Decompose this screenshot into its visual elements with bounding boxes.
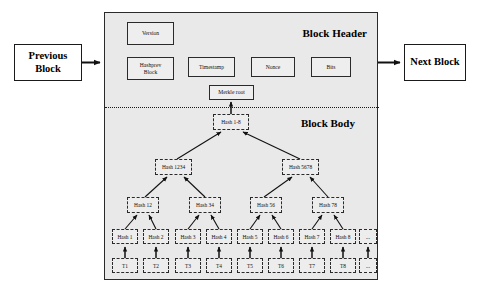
transaction-t6: T6 [268,258,294,273]
block-header-title: Block Header [303,27,367,39]
transaction-t2: T2 [143,258,169,273]
merkle-node-hash-78-label: Hash 78 [319,202,337,208]
merkle-node-hash-12: Hash 12 [127,197,159,213]
merkle-node-hash-56-label: Hash 56 [257,202,275,208]
header-field-nonce: Nonce [251,57,295,77]
transaction-t1-label: T1 [122,263,128,269]
merkle-leaf-hash-overflow-label: ... [366,234,370,240]
merkle-node-hash-5678-label: Hash 5678 [289,164,312,170]
transaction-t8: T8 [330,258,356,273]
merkle-leaf-hash-7: Hash 7 [299,229,325,244]
transaction-t7: T7 [299,258,325,273]
blockchain-block-diagram: Previous Block Next Block Block Header B… [0,0,478,292]
transaction-t8-label: T8 [340,263,346,269]
header-field-merkle-root-label: Merkle root [218,89,245,96]
transaction-t5-label: T5 [247,263,253,269]
merkle-node-hash-12-label: Hash 12 [134,202,152,208]
header-field-timestamp: Timestamp [188,57,235,77]
header-field-version: Version [127,22,174,45]
header-field-merkle-root: Merkle root [209,85,254,100]
transaction-t1: T1 [112,258,138,273]
merkle-node-hash-56: Hash 56 [250,197,282,213]
merkle-leaf-hash-3-label: Hash 3 [180,234,195,240]
merkle-leaf-hash-2: Hash 2 [143,229,169,244]
header-field-bits-label: Bits [326,64,335,71]
header-field-version-label: Version [142,30,159,37]
block-body-title: Block Body [301,117,355,129]
header-field-hashprev-label-line1: Hashprev [140,62,161,68]
merkle-leaf-hash-8-label: Hash 8 [335,234,350,240]
merkle-leaf-hash-5: Hash 5 [237,229,263,244]
transaction-t2-label: T2 [153,263,159,269]
transaction-t3-label: T3 [185,263,191,269]
previous-block: Previous Block [14,44,82,81]
transaction-overflow: ... [359,258,377,273]
merkle-leaf-hash-4-label: Hash 4 [211,234,226,240]
merkle-node-root-label: Hash 1-8 [221,119,241,125]
merkle-node-hash-5678: Hash 5678 [282,159,319,175]
merkle-node-hash-78: Hash 78 [312,197,344,213]
header-field-bits: Bits [311,57,351,77]
merkle-leaf-hash-6-label: Hash 6 [273,234,288,240]
transaction-t4: T4 [206,258,232,273]
merkle-leaf-hash-overflow: ... [359,229,377,244]
next-block-label: Next Block [410,56,459,68]
transaction-t3: T3 [175,258,201,273]
merkle-node-root: Hash 1-8 [213,114,249,130]
merkle-leaf-hash-8: Hash 8 [330,229,356,244]
header-field-nonce-label: Nonce [266,64,281,71]
header-field-hashprev-label-line2: Block [144,69,157,75]
merkle-leaf-hash-6: Hash 6 [268,229,294,244]
transaction-t7-label: T7 [309,263,315,269]
transaction-overflow-label: ... [366,263,370,269]
merkle-leaf-hash-5-label: Hash 5 [242,234,257,240]
next-block: Next Block [404,44,466,81]
previous-block-label-line1: Previous [29,50,68,61]
transaction-t6-label: T6 [278,263,284,269]
merkle-leaf-hash-1-label: Hash 1 [117,234,132,240]
merkle-leaf-hash-7-label: Hash 7 [304,234,319,240]
merkle-node-hash-34-label: Hash 34 [196,202,214,208]
merkle-leaf-hash-3: Hash 3 [175,229,201,244]
merkle-node-hash-34: Hash 34 [189,197,221,213]
merkle-leaf-hash-2-label: Hash 2 [148,234,163,240]
current-block: Block Header Block Body Version Hashprev… [104,12,378,280]
header-body-divider [105,107,379,108]
header-field-hashprev-block: Hashprev Block [127,57,174,80]
merkle-node-hash-1234: Hash 1234 [155,159,192,175]
merkle-node-hash-1234-label: Hash 1234 [162,164,185,170]
transaction-t5: T5 [237,258,263,273]
merkle-leaf-hash-1: Hash 1 [112,229,138,244]
previous-block-label-line2: Block [35,63,61,74]
transaction-t4-label: T4 [216,263,222,269]
header-field-timestamp-label: Timestamp [199,64,224,71]
merkle-leaf-hash-4: Hash 4 [206,229,232,244]
